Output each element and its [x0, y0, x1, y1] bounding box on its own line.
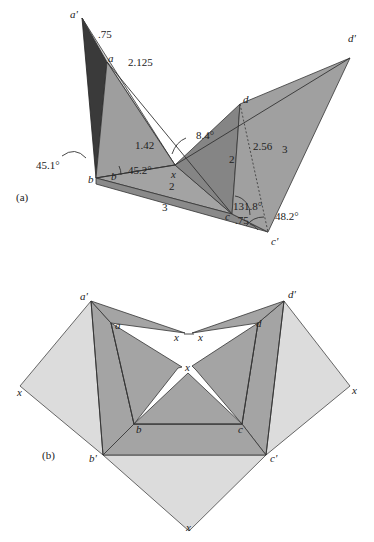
length-b-x: 1.42	[135, 139, 154, 151]
length-b-c-prime: 3	[162, 201, 168, 213]
panel-a-label: (a)	[16, 191, 29, 204]
vertex-x-top-right: x	[197, 331, 203, 343]
vertex-a-prime-b: a'	[80, 290, 89, 302]
vertex-c: c	[225, 210, 230, 222]
panel-a: a' .75 a 2.125 8.4° x 1.42 45.1° b b 45.…	[16, 8, 357, 247]
vertex-c-b: c	[238, 423, 243, 435]
vertex-a-prime: a'	[70, 8, 79, 20]
vertex-x-bottom: x	[185, 521, 191, 533]
length-c-c-prime: .75	[235, 214, 249, 226]
panel-b: a' a d' d x x x x x x b c b' c' (b)	[16, 288, 357, 533]
vertex-d: d	[243, 93, 249, 105]
bottom-light-flap	[103, 455, 266, 531]
length-c-prime-d-prime: 3	[282, 143, 288, 155]
left-gray-face	[96, 62, 175, 178]
vertex-x-top-left: x	[173, 331, 179, 343]
fold-diagram: a' .75 a 2.125 8.4° x 1.42 45.1° b b 45.…	[0, 0, 374, 542]
angle-b: 45.2°	[128, 164, 152, 176]
vertex-a: a	[108, 52, 114, 64]
length-b-c: 2	[169, 180, 175, 192]
vertex-b: b	[111, 170, 117, 182]
length-a-prime-a: .75	[98, 28, 112, 40]
length-c-d: 2	[229, 153, 235, 165]
angle-c: 131.8°	[233, 200, 262, 212]
angle-x: 8.4°	[196, 129, 214, 141]
vertex-d-prime: d'	[348, 32, 357, 44]
angle-c-prime: 48.2°	[275, 210, 299, 222]
vertex-a-b: a	[115, 319, 121, 331]
vertex-x-right: x	[351, 384, 357, 396]
vertex-b-outer: b	[88, 173, 94, 185]
vertex-c-prime: c'	[271, 235, 279, 247]
panel-b-label: (b)	[42, 449, 55, 462]
length-c-prime-d-dotted: 2.56	[253, 140, 273, 152]
vertex-d-prime-b: d'	[288, 288, 297, 300]
length-a-prime-x: 2.125	[128, 56, 153, 68]
vertex-x-center: x	[184, 361, 190, 373]
vertex-x-left: x	[16, 386, 22, 398]
vertex-b-prime-b: b'	[89, 452, 98, 464]
vertex-b-b: b	[136, 423, 142, 435]
angle-b-outer: 45.1°	[36, 159, 60, 171]
vertex-d-b: d	[256, 317, 262, 329]
vertex-c-prime-b: c'	[270, 452, 278, 464]
vertex-x: x	[170, 168, 176, 180]
